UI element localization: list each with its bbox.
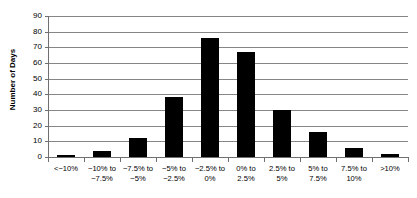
y-tick-label: 80 xyxy=(22,28,42,36)
x-tick-mark xyxy=(372,158,373,162)
x-tick-label: 5% to 7.5% xyxy=(300,164,336,183)
y-tick-label-wrap: 0 xyxy=(20,153,42,161)
y-tick-label-wrap: 30 xyxy=(20,106,42,114)
gridline xyxy=(48,47,408,48)
x-tick-mark xyxy=(300,158,301,162)
gridline xyxy=(48,16,408,17)
y-tick-mark xyxy=(45,94,48,95)
y-tick-label: 60 xyxy=(22,59,42,67)
gridline xyxy=(48,141,408,142)
y-tick-mark xyxy=(45,110,48,111)
y-tick-label-wrap: 20 xyxy=(20,122,42,130)
x-tick-mark xyxy=(84,158,85,162)
y-tick-label-wrap: 50 xyxy=(20,75,42,83)
bar xyxy=(237,52,255,157)
y-tick-label: 90 xyxy=(22,12,42,20)
y-tick-mark xyxy=(45,47,48,48)
gridline xyxy=(48,94,408,95)
y-tick-mark xyxy=(45,16,48,17)
gridline xyxy=(48,32,408,33)
x-tick-label: >10% xyxy=(372,164,408,174)
y-tick-mark xyxy=(45,32,48,33)
x-tick-label: −7.5% to −5% xyxy=(120,164,156,183)
y-tick-label-wrap: 90 xyxy=(20,12,42,20)
x-tick-mark xyxy=(228,158,229,162)
x-tick-mark xyxy=(156,158,157,162)
x-tick-mark xyxy=(264,158,265,162)
y-tick-mark xyxy=(45,141,48,142)
gridline xyxy=(48,63,408,64)
x-tick-label: −5% to −2.5% xyxy=(156,164,192,183)
x-tick-mark xyxy=(48,158,49,162)
y-tick-label: 30 xyxy=(22,106,42,114)
gridline xyxy=(48,79,408,80)
bar-chart: Number of Days 0102030405060708090 <−10%… xyxy=(0,0,417,198)
bar xyxy=(309,132,327,157)
y-axis-line xyxy=(48,16,49,158)
y-tick-label: 20 xyxy=(22,122,42,130)
y-tick-label-wrap: 60 xyxy=(20,59,42,67)
y-tick-label-wrap: 40 xyxy=(20,90,42,98)
bar xyxy=(129,138,147,157)
bar xyxy=(201,38,219,157)
y-tick-label: 0 xyxy=(22,153,42,161)
bar xyxy=(165,97,183,157)
y-tick-mark xyxy=(45,126,48,127)
x-tick-mark xyxy=(120,158,121,162)
y-tick-label: 40 xyxy=(22,90,42,98)
y-tick-label-wrap: 10 xyxy=(20,137,42,145)
x-tick-label: 2.5% to 5% xyxy=(264,164,300,183)
y-axis-title-label: Number of Days xyxy=(9,48,18,109)
y-tick-label: 10 xyxy=(22,137,42,145)
y-tick-mark xyxy=(45,79,48,80)
gridline xyxy=(48,126,408,127)
x-tick-mark xyxy=(336,158,337,162)
y-tick-label-wrap: 80 xyxy=(20,28,42,36)
bar xyxy=(345,148,363,157)
y-tick-label-wrap: 70 xyxy=(20,43,42,51)
x-tick-label: −10% to −7.5% xyxy=(84,164,120,183)
x-tick-label: −2.5% to 0% xyxy=(192,164,228,183)
x-tick-label: 0% to 2.5% xyxy=(228,164,264,183)
y-tick-mark xyxy=(45,63,48,64)
y-tick-label: 50 xyxy=(22,75,42,83)
gridline xyxy=(48,110,408,111)
plot-area xyxy=(48,16,408,157)
x-tick-label: <−10% xyxy=(48,164,84,174)
x-tick-label: 7.5% to 10% xyxy=(336,164,372,183)
x-tick-mark xyxy=(192,158,193,162)
y-tick-label: 70 xyxy=(22,43,42,51)
bar xyxy=(273,110,291,157)
x-tick-mark xyxy=(408,158,409,162)
